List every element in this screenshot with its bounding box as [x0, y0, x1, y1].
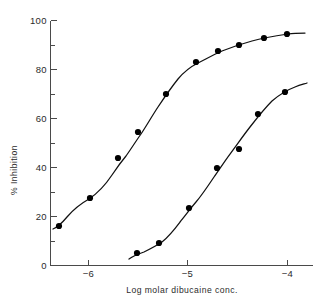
data-point: [282, 89, 288, 95]
data-point: [236, 42, 242, 48]
x-tick-label-minus6: −6: [83, 268, 95, 279]
data-point: [87, 195, 93, 201]
y-tick-label-0: 0: [41, 260, 47, 271]
data-point: [214, 165, 220, 171]
data-point: [261, 35, 267, 41]
x-tick-label-minus5: −5: [182, 268, 194, 279]
series-upper-curve: [53, 31, 305, 229]
data-point: [255, 111, 261, 117]
y-tick-label-20: 20: [36, 211, 47, 222]
data-point: [134, 250, 140, 256]
x-axis-title: Log molar dibucaine conc.: [126, 285, 238, 295]
data-point: [115, 155, 121, 161]
data-point: [284, 31, 290, 37]
data-point: [56, 223, 62, 229]
data-point: [135, 129, 141, 135]
x-tick-label-minus4: −4: [282, 268, 294, 279]
chart-plot-area: 100 80 60 40 20 0 % Inhibition −6 −5 −4 …: [0, 0, 321, 304]
y-axis: 100 80 60 40 20 0 % Inhibition: [9, 15, 57, 271]
data-point: [215, 48, 221, 54]
y-axis-title: % Inhibition: [9, 145, 19, 195]
x-axis: −6 −5 −4 Log molar dibucaine conc.: [51, 260, 313, 296]
y-tick-label-80: 80: [36, 64, 47, 75]
chart-figure: 100 80 60 40 20 0 % Inhibition −6 −5 −4 …: [0, 0, 321, 304]
data-point: [193, 59, 199, 65]
data-point: [156, 240, 162, 246]
y-tick-label-40: 40: [36, 162, 47, 173]
y-tick-label-60: 60: [36, 113, 47, 124]
data-point: [186, 205, 192, 211]
y-tick-label-100: 100: [30, 15, 47, 26]
data-point: [236, 146, 242, 152]
data-point: [163, 91, 169, 97]
